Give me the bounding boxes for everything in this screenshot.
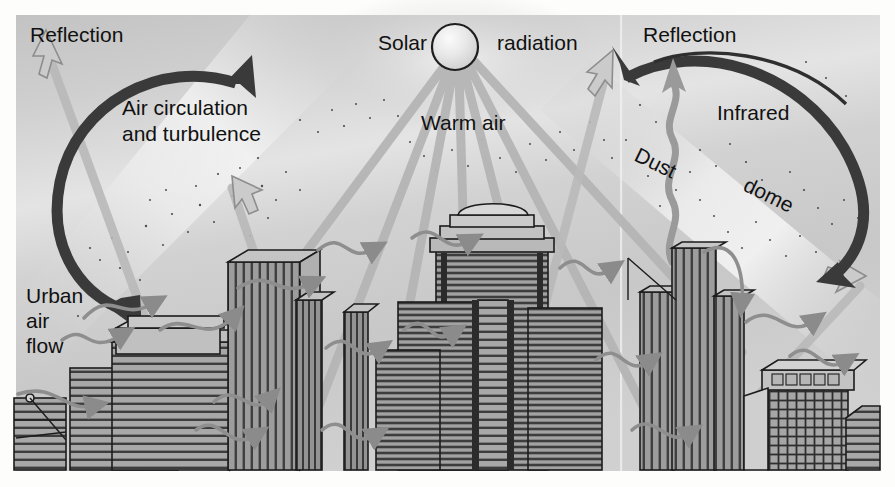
label-air-circulation-line1: Air circulation: [122, 96, 248, 119]
label-infrared: Infrared: [717, 101, 789, 124]
sun-icon: [432, 24, 478, 70]
bldg-center-spine: [472, 300, 514, 470]
bldg-center-low: [376, 350, 440, 470]
diagram-stage: Reflection Air circulation and turbulenc…: [0, 0, 895, 487]
urban-heat-island-diagram: Reflection Air circulation and turbulenc…: [0, 0, 895, 487]
label-reflection-left: Reflection: [30, 23, 123, 46]
label-warm-air: Warm air: [421, 111, 505, 134]
bldg-left-small: [14, 394, 66, 470]
bldg-left-tall: [116, 316, 238, 354]
bldg-right-last: [846, 406, 880, 470]
label-radiation: radiation: [497, 31, 578, 54]
label-solar: Solar: [378, 31, 427, 54]
scan-seam: [620, 15, 622, 471]
label-urban-line2: air: [26, 309, 49, 332]
label-urban-line3: flow: [26, 334, 64, 357]
label-urban-line1: Urban: [26, 284, 83, 307]
label-reflection-right: Reflection: [643, 23, 736, 46]
label-air-circulation-line2: and turbulence: [122, 122, 261, 145]
bldg-center-right: [528, 308, 602, 470]
